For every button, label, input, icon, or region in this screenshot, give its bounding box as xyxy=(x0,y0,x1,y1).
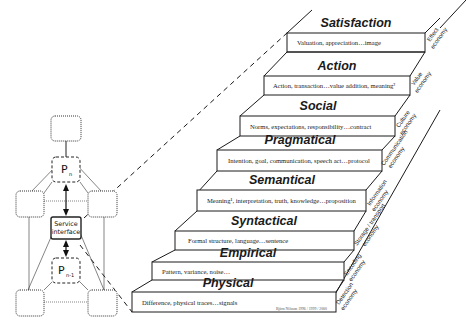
economy-label-effect: Effect economy xyxy=(424,22,449,49)
network-node-upper-left xyxy=(16,191,44,217)
level-desc-semantical: Meaning¹, interpretation, truth, knowled… xyxy=(207,197,357,204)
level-title-physical: Physical xyxy=(203,276,254,290)
level-desc-syntactical: Formal structure, language…sentence xyxy=(188,237,288,244)
arrow-up-head-icon xyxy=(63,184,69,191)
level-desc-action: Action, transaction…value addition, mean… xyxy=(273,82,395,89)
level-title-empirical: Empirical xyxy=(220,246,277,260)
economy-label-encoding: Encoding economy xyxy=(342,253,368,283)
node-pn1-subscript: n-1 xyxy=(66,272,74,278)
level-title-social: Social xyxy=(300,99,337,113)
service-interface-line2: interface xyxy=(52,228,81,236)
level-title-syntactical: Syntactical xyxy=(231,214,298,228)
service-network xyxy=(16,116,117,316)
arrow-down-head-icon xyxy=(63,209,69,216)
level-title-action: Action xyxy=(317,59,357,73)
level-desc-empirical: Pattern, variance, noise… xyxy=(162,268,230,275)
network-node-lower-right xyxy=(88,290,117,316)
side-rail-top xyxy=(440,0,466,28)
credit-text: Björn Nilsson 1996 / 1999 / 2000 xyxy=(276,307,327,311)
economy-label-detection: Detection economy xyxy=(334,281,360,311)
level-title-pragmatical: Pragmatical xyxy=(265,133,336,147)
node-pn-minus-1 xyxy=(52,258,80,283)
network-node-lower-left xyxy=(16,290,44,316)
level-title-semantical: Semantical xyxy=(249,173,316,187)
network-node-upper-right xyxy=(88,191,117,217)
level-desc-pragmatical: Intention, goal, communication, speech a… xyxy=(228,157,370,164)
level-desc-social: Norms, expectations, responsibility…cont… xyxy=(250,123,371,130)
service-interface-line1: Service xyxy=(54,220,78,228)
network-node-top xyxy=(51,116,81,141)
node-pn-label: P xyxy=(61,163,68,176)
economy-label-value: Value economy xyxy=(408,66,433,93)
level-desc-satisfaction: Valuation, appreciation…image xyxy=(297,39,381,46)
level-title-satisfaction: Satisfaction xyxy=(321,16,392,30)
step-edge xyxy=(287,10,312,33)
stairs-diagram: Satisfaction Action Social Pragmatical S… xyxy=(0,0,466,331)
arrow-down-head-icon xyxy=(63,250,69,257)
node-pn-subscript: n xyxy=(69,171,72,177)
arrow-up-head-icon xyxy=(63,240,69,247)
level-desc-physical: Difference, physical traces…signals xyxy=(142,299,238,306)
node-pn1-label: P xyxy=(58,264,65,277)
